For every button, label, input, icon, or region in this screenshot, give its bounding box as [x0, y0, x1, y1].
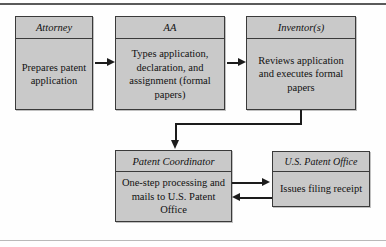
arrow-shaft-vertical-upper — [300, 110, 302, 124]
arrow-shaft — [232, 182, 264, 184]
node-inventors-body: Reviews application and executes formal … — [247, 39, 355, 109]
flowchart-canvas: Attorney Prepares patent application AA … — [0, 0, 386, 247]
arrow-shaft-horizontal — [175, 123, 302, 125]
arrowhead-right-icon — [238, 58, 246, 66]
node-inventors-body-label: Reviews application and executes formal … — [250, 54, 352, 95]
node-patent-coordinator-header-label: Patent Coordinator — [132, 156, 214, 167]
node-inventors: Inventor(s) Reviews application and exec… — [246, 16, 356, 110]
node-inventors-header: Inventor(s) — [247, 17, 355, 39]
node-aa-header-label: AA — [164, 22, 177, 33]
node-aa-body: Types application, declaration, and assi… — [116, 39, 224, 109]
node-attorney: Attorney Prepares patent application — [15, 16, 93, 110]
top-divider-rule — [0, 3, 386, 5]
node-patent-coordinator-body: One-step processing and mails to U.S. Pa… — [116, 172, 231, 221]
bottom-divider-rule — [0, 240, 386, 241]
node-attorney-header: Attorney — [16, 17, 92, 39]
arrowhead-left-icon — [232, 193, 240, 201]
node-patent-coordinator-body-label: One-step processing and mails to U.S. Pa… — [119, 176, 228, 217]
node-patent-coordinator: Patent Coordinator One-step processing a… — [115, 150, 232, 222]
node-us-patent-office-header-label: U.S. Patent Office — [285, 156, 358, 167]
arrowhead-right-icon — [262, 178, 270, 186]
node-aa-body-label: Types application, declaration, and assi… — [119, 47, 221, 101]
node-attorney-body-label: Prepares patent application — [19, 61, 89, 88]
node-aa-header: AA — [116, 17, 224, 39]
arrowhead-right-icon — [107, 58, 115, 66]
node-patent-coordinator-header: Patent Coordinator — [116, 151, 231, 172]
node-us-patent-office: U.S. Patent Office Issues filing receipt — [272, 151, 370, 207]
node-attorney-body: Prepares patent application — [16, 39, 92, 109]
node-us-patent-office-body-label: Issues filing receipt — [276, 182, 366, 196]
node-attorney-header-label: Attorney — [36, 22, 72, 33]
arrowhead-down-icon — [171, 140, 179, 149]
node-inventors-header-label: Inventor(s) — [278, 22, 325, 33]
arrow-shaft — [240, 197, 272, 199]
node-aa: AA Types application, declaration, and a… — [115, 16, 225, 110]
node-us-patent-office-body: Issues filing receipt — [273, 172, 369, 206]
node-us-patent-office-header: U.S. Patent Office — [273, 152, 369, 172]
